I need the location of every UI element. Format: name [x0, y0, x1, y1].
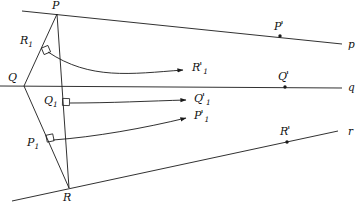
vertex-label-Q: Q: [8, 72, 17, 83]
geometry-figure: P Q R R1 Q1 P1 P' Q' R' R'1 Q'1 P'1 p q …: [0, 0, 363, 209]
arrow-prime-R1: ': [199, 60, 202, 73]
arrow-Q1-to-Q1prime: [70, 100, 186, 103]
prime-mark-R: ': [287, 124, 290, 137]
foot-label-P1: P1: [27, 137, 39, 148]
vertex-label-R: R: [63, 192, 71, 203]
point-R-prime: [285, 140, 288, 143]
ray-q: [0, 86, 342, 88]
point-label-R-prime: R': [280, 126, 291, 137]
arrow-prime-Q1: ': [202, 91, 205, 104]
arrow-label-R1-prime: R'1: [192, 62, 208, 73]
arrow-label-P1-prime: P'1: [194, 110, 209, 121]
arrow-prime-P1: ': [200, 108, 203, 121]
segment-PR: [57, 14, 69, 188]
point-label-P-prime: P': [274, 21, 284, 32]
arrow-sub-Q1: 1: [206, 98, 211, 107]
point-Q-prime: [283, 85, 286, 88]
point-P-prime: [278, 34, 281, 37]
segment-PQ: [24, 14, 57, 86]
foot-sub-R1: 1: [28, 40, 33, 49]
ray-label-p: p: [348, 39, 355, 50]
foot-label-Q1: Q1: [44, 95, 58, 106]
ray-label-q: q: [348, 82, 355, 93]
prime-mark-Q: ': [286, 69, 289, 82]
point-label-Q-prime: Q': [278, 71, 290, 82]
curved-arrows-group: [48, 52, 186, 140]
foot-letter-Q1: Q: [44, 94, 53, 107]
foot-label-R1: R1: [20, 35, 33, 46]
prime-mark-P: ': [280, 19, 283, 32]
arrow-P1-to-P1prime: [53, 118, 186, 140]
foot-sub-P1: 1: [34, 142, 39, 151]
ray-label-r: r: [348, 126, 353, 137]
arrow-label-Q1-prime: Q'1: [194, 93, 211, 104]
arrow-sub-P1: 1: [204, 115, 209, 124]
vertex-label-P: P: [52, 0, 59, 11]
foot-sub-Q1: 1: [53, 100, 58, 109]
ray-p: [22, 11, 342, 44]
arrow-R1-to-R1prime: [48, 52, 183, 73]
arrow-sub-R1: 1: [203, 67, 208, 76]
ray-r: [12, 131, 338, 201]
